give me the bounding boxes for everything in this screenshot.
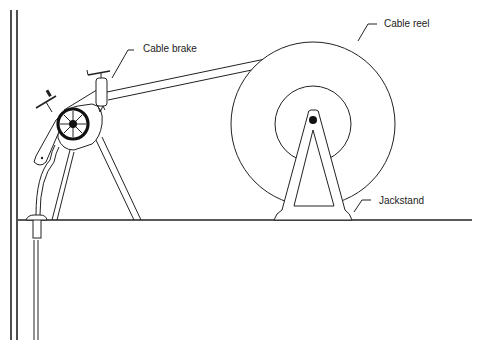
left-t-handle bbox=[36, 89, 56, 112]
handwheel bbox=[58, 109, 88, 139]
label-cable-reel: Cable reel bbox=[384, 18, 430, 29]
label-jackstand: Jackstand bbox=[379, 195, 424, 206]
label-cable-brake: Cable brake bbox=[143, 43, 197, 54]
wall-casing bbox=[11, 10, 17, 340]
brake-tripod-legs bbox=[52, 137, 141, 220]
cable-rig-diagram: Cable brake Cable reel Jackstand bbox=[0, 0, 483, 347]
well-pipe bbox=[26, 215, 47, 340]
